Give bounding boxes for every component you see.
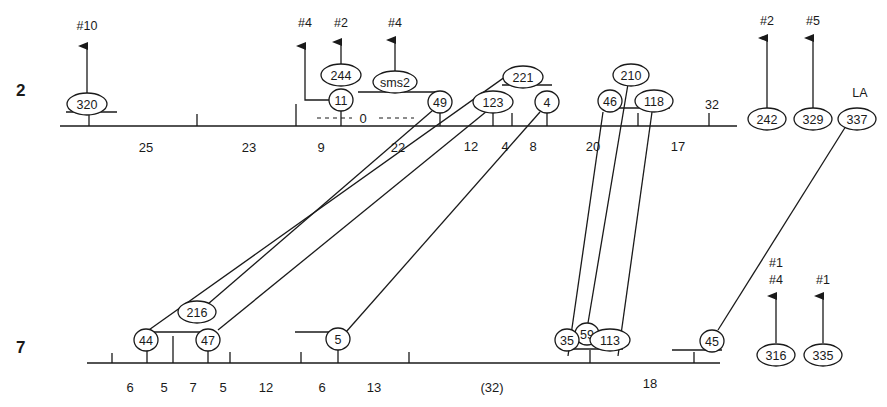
marker-216[interactable]: 216 xyxy=(178,301,216,323)
svg-text:44: 44 xyxy=(139,334,153,348)
svg-text:11: 11 xyxy=(335,94,348,108)
segment-label: 12 xyxy=(259,380,273,395)
marker-47[interactable]: 47 xyxy=(196,329,220,351)
marker-210[interactable]: 210 xyxy=(613,64,649,86)
segment-label: 7 xyxy=(189,380,196,395)
top-arrows: #10 #4 #2 #4 #2 #5 LA xyxy=(77,14,869,108)
marker-335[interactable]: 335 xyxy=(804,344,842,366)
marker-320[interactable]: 320 xyxy=(67,93,107,115)
chromosome-2-axis: 0 25 23 9 22 12 4 8 20 17 xyxy=(60,85,737,155)
svg-text:337: 337 xyxy=(847,113,868,127)
marker-244[interactable]: 244 xyxy=(321,64,361,86)
svg-text:sms2: sms2 xyxy=(380,76,410,90)
segment-label: 4 xyxy=(501,139,508,154)
svg-text:113: 113 xyxy=(600,334,620,348)
zero-gap-label: 0 xyxy=(359,111,366,126)
marker-113[interactable]: 113 xyxy=(590,329,630,351)
svg-text:46: 46 xyxy=(603,95,617,109)
top-markers: 320 11 244 sms2 49 221 123 4 xyxy=(67,64,876,130)
svg-text:35: 35 xyxy=(560,334,574,348)
destination-label-4b: #4 xyxy=(388,16,402,30)
destination-label-4: #4 xyxy=(298,16,312,30)
svg-text:316: 316 xyxy=(766,349,787,363)
svg-text:45: 45 xyxy=(705,335,719,349)
svg-text:49: 49 xyxy=(433,96,447,110)
destination-label-1: #1 xyxy=(769,256,783,270)
svg-text:216: 216 xyxy=(187,306,208,320)
marker-35[interactable]: 35 xyxy=(555,329,579,351)
marker-46[interactable]: 46 xyxy=(598,90,622,112)
segment-label: 18 xyxy=(643,376,657,391)
segment-label: 22 xyxy=(391,140,405,155)
connection-lines xyxy=(146,72,846,356)
segment-label: 8 xyxy=(529,139,536,154)
connection-118-113 xyxy=(618,112,652,356)
svg-text:123: 123 xyxy=(483,96,504,110)
segment-label: 23 xyxy=(242,140,256,155)
marker-316[interactable]: 316 xyxy=(757,344,795,366)
bottom-arrows: #1 #4 #1 xyxy=(769,256,830,343)
segment-label: 13 xyxy=(367,380,381,395)
destination-label-2: #2 xyxy=(334,16,348,30)
destination-label-5: #5 xyxy=(806,14,820,28)
marker-329[interactable]: 329 xyxy=(794,108,832,130)
bottom-markers: 44 216 47 5 59 35 113 45 xyxy=(134,301,842,366)
destination-label-1b: #1 xyxy=(816,273,830,287)
chromosome-2-label: 2 xyxy=(16,81,25,100)
segment-label: 5 xyxy=(160,380,167,395)
svg-text:329: 329 xyxy=(803,113,824,127)
marker-49[interactable]: 49 xyxy=(428,91,452,113)
marker-32: 32 xyxy=(705,98,719,112)
segment-label: 5 xyxy=(219,380,226,395)
segment-label: 20 xyxy=(586,139,600,154)
destination-label-2b: #2 xyxy=(760,14,774,28)
marker-118[interactable]: 118 xyxy=(635,90,673,112)
marker-44[interactable]: 44 xyxy=(134,329,158,351)
connection-337-45 xyxy=(718,126,846,330)
svg-text:118: 118 xyxy=(644,95,664,109)
svg-text:335: 335 xyxy=(813,349,834,363)
marker-4[interactable]: 4 xyxy=(535,91,559,113)
synteny-diagram: 2 7 0 25 23 9 22 xyxy=(0,0,887,407)
segment-label: 9 xyxy=(317,140,324,155)
marker-5[interactable]: 5 xyxy=(326,328,350,350)
segment-label: 17 xyxy=(671,139,685,154)
segment-label: 12 xyxy=(464,139,478,154)
marker-sms2[interactable]: sms2 xyxy=(373,71,417,93)
destination-label-10: #10 xyxy=(77,19,98,33)
marker-221[interactable]: 221 xyxy=(503,66,543,88)
svg-text:242: 242 xyxy=(757,113,778,127)
segment-label: 6 xyxy=(126,380,133,395)
connection-4-5 xyxy=(346,112,540,332)
svg-text:4: 4 xyxy=(544,96,551,110)
segment-label: (32) xyxy=(480,380,503,395)
svg-text:5: 5 xyxy=(335,333,342,347)
connection-221-44 xyxy=(146,72,512,332)
svg-text:210: 210 xyxy=(621,69,642,83)
svg-text:244: 244 xyxy=(331,69,352,83)
marker-337[interactable]: 337 xyxy=(838,108,876,130)
marker-11[interactable]: 11 xyxy=(329,89,353,111)
destination-label-4c: #4 xyxy=(769,273,783,287)
marker-242[interactable]: 242 xyxy=(748,108,786,130)
connection-210-59 xyxy=(588,84,628,323)
connection-123-47 xyxy=(218,111,487,330)
svg-text:320: 320 xyxy=(77,98,98,112)
la-label: LA xyxy=(852,86,868,100)
svg-text:47: 47 xyxy=(201,334,215,348)
segment-label: 25 xyxy=(139,140,153,155)
chromosome-7-label: 7 xyxy=(16,338,25,357)
svg-text:221: 221 xyxy=(513,71,534,85)
marker-123[interactable]: 123 xyxy=(473,91,513,113)
segment-label: 6 xyxy=(318,380,325,395)
marker-45[interactable]: 45 xyxy=(700,330,724,352)
